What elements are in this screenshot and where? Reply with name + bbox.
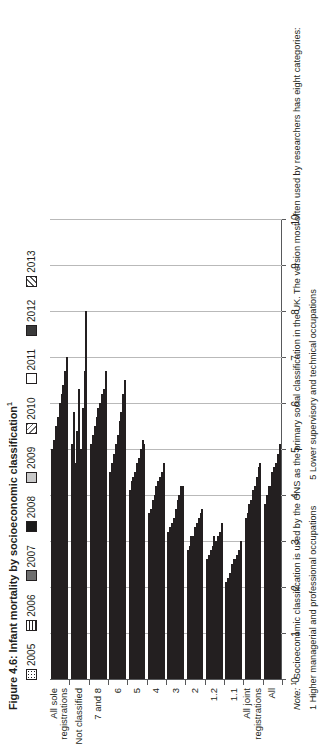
- bar-2013-5: [167, 532, 169, 679]
- bar-2010-2: [231, 564, 233, 679]
- bar-2009-11: [59, 403, 61, 679]
- bar-2012-7: [131, 481, 133, 679]
- bar-2010-9: [96, 417, 98, 679]
- page-title: Figure 4.6: Infant mortality by socioeco…: [6, 402, 19, 710]
- x-tick-7: [282, 357, 286, 358]
- bar-2007-7: [140, 449, 142, 679]
- bar-2006-1: [258, 467, 260, 679]
- bar-2008-3: [215, 541, 217, 679]
- bar-2011-1: [248, 504, 250, 679]
- category-tick-5: [185, 680, 186, 685]
- bar-2006-9: [103, 389, 105, 679]
- category-label-1: All joint registrations: [242, 688, 263, 748]
- legend-item-2011: 2011: [26, 349, 37, 385]
- bar-2013-11: [51, 449, 53, 679]
- bar-2013-4: [187, 550, 189, 679]
- bar-2010-0: [270, 486, 272, 679]
- legend-swatch-2010: [26, 423, 37, 434]
- bar-2005-0: [279, 444, 281, 679]
- bar-2007-2: [236, 555, 238, 679]
- bar-2005-6: [163, 463, 165, 679]
- x-tick-8: [282, 311, 286, 312]
- category-tick-3: [224, 680, 225, 685]
- bar-2007-6: [159, 477, 161, 679]
- bar-2008-1: [254, 486, 256, 679]
- bar-2011-4: [190, 536, 192, 679]
- category-tick-11: [69, 680, 70, 685]
- bar-2008-9: [99, 403, 101, 679]
- bar-2005-7: [143, 444, 145, 679]
- legend-label-2008: 2008: [26, 496, 37, 518]
- bar-2005-11: [66, 357, 68, 679]
- bar-2009-1: [252, 490, 254, 679]
- bar-2007-0: [275, 463, 277, 679]
- bar-2011-8: [113, 454, 115, 679]
- category-label-4: 2: [190, 688, 201, 693]
- bar-2006-5: [180, 486, 182, 679]
- bar-2009-2: [233, 559, 235, 679]
- legend-swatch-2009: [26, 472, 37, 483]
- legend-label-2006: 2006: [26, 595, 37, 617]
- bar-2013-9: [90, 444, 92, 679]
- bar-2009-8: [117, 435, 119, 679]
- legend-item-2008: 2008: [26, 496, 37, 532]
- category-tick-6: [166, 680, 167, 685]
- bar-2011-11: [55, 426, 57, 679]
- note-category-1: 1 Higher managerial and professional occ…: [307, 506, 319, 710]
- bar-2012-5: [169, 527, 171, 679]
- x-tick-1: [282, 633, 286, 634]
- bar-2007-11: [62, 385, 64, 679]
- category-label-6: 4: [151, 688, 162, 693]
- bar-2006-0: [277, 454, 279, 679]
- category-label-0: All: [267, 688, 278, 699]
- category-label-7: 5: [132, 688, 143, 693]
- note-text: Socioeconomic classification is used by …: [292, 27, 302, 679]
- legend-label-2010: 2010: [26, 398, 37, 420]
- x-tick-6: [282, 403, 286, 404]
- category-tick-4: [205, 680, 206, 685]
- bar-2012-0: [266, 495, 268, 679]
- bar-2006-2: [238, 550, 240, 679]
- bar-2013-8: [109, 472, 111, 679]
- bar-2006-10: [84, 371, 86, 679]
- category-tick-10: [89, 680, 90, 685]
- bar-2005-3: [221, 523, 223, 679]
- category-label-9: 7 and 8: [93, 688, 104, 720]
- bar-2013-10: [71, 444, 73, 679]
- bar-2007-5: [178, 495, 180, 679]
- bar-2005-9: [105, 371, 107, 679]
- bar-2009-5: [175, 509, 177, 679]
- note-label: Note:: [292, 688, 302, 710]
- legend-swatch-2007: [26, 571, 37, 582]
- legend-swatch-2011: [26, 374, 37, 385]
- bar-2006-3: [219, 532, 221, 679]
- category-tick-2: [243, 680, 244, 685]
- legend-item-2010: 2010: [26, 398, 37, 434]
- bar-2007-1: [256, 477, 258, 679]
- bar-2007-9: [101, 394, 103, 679]
- chart-canvas: 012345678910AllAll joint registrations1.…: [50, 220, 282, 680]
- bar-2008-11: [61, 394, 63, 679]
- legend-swatch-2012: [26, 325, 37, 336]
- bar-2010-11: [57, 417, 59, 679]
- bar-2009-6: [155, 486, 157, 679]
- bar-2007-4: [198, 518, 200, 679]
- bar-2010-10: [76, 431, 78, 679]
- bar-2012-6: [150, 509, 152, 679]
- bar-2011-10: [74, 463, 76, 679]
- gridline-10: [50, 219, 282, 220]
- bar-2010-3: [212, 546, 214, 679]
- bar-2006-7: [142, 440, 144, 679]
- legend-label-2011: 2011: [26, 349, 37, 371]
- figure-note: Note: 1 Socioeconomic classification is …: [290, 10, 320, 710]
- bar-2008-10: [80, 449, 82, 679]
- bar-2012-9: [92, 435, 94, 679]
- bar-2008-7: [138, 458, 140, 679]
- note-marker: 1: [290, 682, 297, 686]
- x-tick-4: [282, 495, 286, 496]
- bar-2010-7: [134, 472, 136, 679]
- bar-2012-3: [208, 555, 210, 679]
- legend-label-2005: 2005: [26, 644, 37, 666]
- bar-2005-8: [124, 380, 126, 679]
